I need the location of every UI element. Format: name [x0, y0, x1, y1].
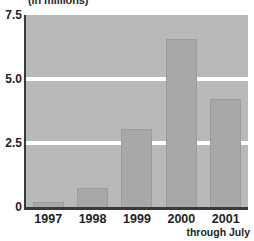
bar-1999[interactable]: [121, 129, 152, 207]
x-axis-tick-2001: 2001: [204, 212, 248, 226]
chart-title: (in millions): [28, 0, 88, 6]
bar-slot-1998: [70, 15, 114, 207]
y-axis-labels: 7.5 5.0 2.5 0: [0, 0, 22, 241]
x-axis-line: [26, 207, 248, 210]
bar-slot-2000: [159, 15, 203, 207]
bar-slot-2001: [204, 15, 248, 207]
bar-slot-1997: [26, 15, 70, 207]
bar-2001[interactable]: [210, 99, 241, 207]
plot-area: [26, 15, 248, 207]
x-axis-tick-1998: 1998: [70, 212, 114, 226]
x-axis-labels: 19971998199920002001: [26, 212, 248, 226]
x-axis-tick-1999: 1999: [115, 212, 159, 226]
footnote-through-july: through July: [186, 226, 250, 238]
y-axis-tick-5-0: 5.0: [0, 73, 22, 85]
y-axis-tick-2-5: 2.5: [0, 137, 22, 149]
x-axis-tick-2000: 2000: [159, 212, 203, 226]
y-axis-tick-0: 0: [0, 201, 22, 213]
bar-slot-1999: [115, 15, 159, 207]
bar-1998[interactable]: [77, 188, 108, 207]
x-axis-tick-1997: 1997: [26, 212, 70, 226]
bar-chart: (in millions) 7.5 5.0 2.5 0 199719981999…: [0, 0, 254, 241]
y-axis-tick-7-5: 7.5: [0, 9, 22, 21]
bars-container: [26, 15, 248, 207]
bar-2000[interactable]: [166, 39, 197, 207]
y-axis-line: [24, 15, 26, 210]
